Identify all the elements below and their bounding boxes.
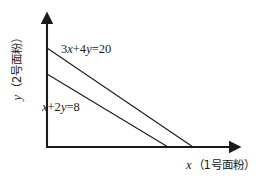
x-axis-label-text: （1号面粉） [193,158,255,172]
constraint-line-upper [47,48,193,147]
equation-upper-operator: +4 [73,42,86,56]
linear-programming-figure: 3x+4y=20 x+2y=8 x（1号面粉） y（2号面粉） [0,0,279,186]
equation-label-lower: x+2y=8 [42,101,80,114]
equation-upper-value: =20 [92,42,112,56]
x-axis-label: x（1号面粉） [186,159,255,172]
y-axis-label-text: （2号面粉） [10,32,24,94]
y-axis-label-container: y（2号面粉） [7,18,27,114]
equation-label-upper: 3x+4y=20 [61,43,111,56]
equation-lower-value: =8 [66,100,79,114]
y-axis-label: y（2号面粉） [11,32,24,101]
y-axis-label-variable: y [10,94,24,101]
equation-lower-operator: +2 [48,100,61,114]
